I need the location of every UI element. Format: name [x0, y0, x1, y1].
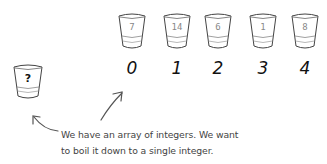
cup-value: 8 — [290, 22, 320, 32]
caption: We have an array of integers. We want to… — [61, 127, 238, 159]
array-cup-0: 7 — [117, 11, 147, 51]
array-index: 1 — [162, 58, 192, 78]
caption-line-1: We have an array of integers. We want — [61, 127, 238, 143]
cup-value: 6 — [203, 22, 233, 32]
array-cup-1: 14 — [162, 11, 192, 51]
array-cup-4: 8 — [290, 11, 320, 51]
array-index: 4 — [290, 58, 320, 78]
up-arrow-icon — [101, 92, 122, 120]
result-cup: ? — [12, 62, 44, 100]
cup-value: 1 — [248, 22, 278, 32]
array-cup-2: 6 — [203, 11, 233, 51]
array-index: 0 — [117, 58, 147, 78]
array-index: 3 — [248, 58, 278, 78]
curved-arrow-icon — [33, 116, 58, 131]
cup-value: 14 — [162, 22, 192, 32]
array-index: 2 — [203, 58, 233, 78]
cup-value: 7 — [117, 22, 147, 32]
caption-line-2: to boil it down to a single integer. — [61, 143, 238, 159]
array-cup-3: 1 — [248, 11, 278, 51]
result-value: ? — [12, 72, 44, 85]
